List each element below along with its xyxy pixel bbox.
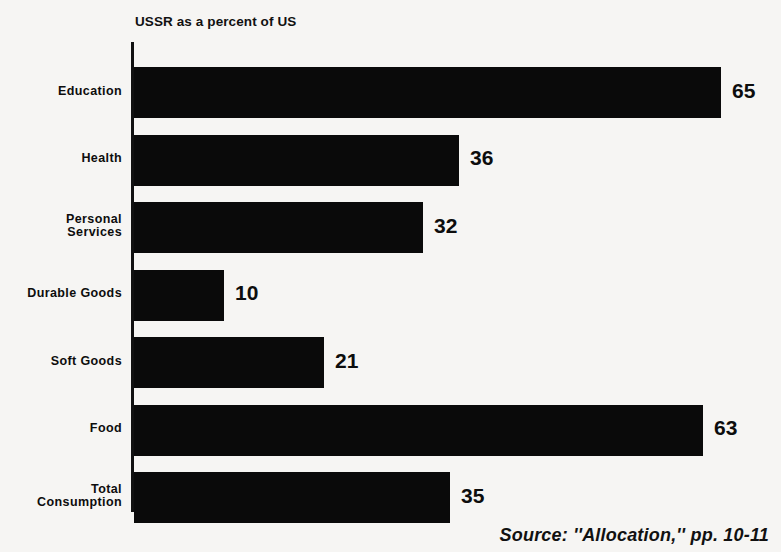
chart-page: USSR as a percent of US Education65Healt…	[0, 0, 781, 552]
bar-chart-plot-area: Education65Health36PersonalServices32Dur…	[0, 0, 781, 552]
bar-value-label: 63	[714, 416, 737, 440]
bar-rect	[134, 270, 224, 321]
bar-value-label: 35	[461, 484, 484, 508]
bar-row: TotalConsumption35	[0, 472, 781, 523]
bar-rect	[134, 67, 721, 118]
bar-value-label: 10	[235, 281, 258, 305]
bar-category-label: TotalConsumption	[0, 483, 132, 510]
bar-rect	[134, 337, 324, 388]
bar-category-label: Soft Goods	[0, 355, 132, 368]
bar-row: Soft Goods21	[0, 337, 781, 388]
source-note: Source: ''Allocation,'' pp. 10-11	[500, 525, 769, 546]
bar-row: Education65	[0, 67, 781, 118]
bar-category-label: Food	[0, 422, 132, 435]
bar-rect	[134, 472, 450, 523]
bar-value-label: 21	[335, 349, 358, 373]
bar-row: Durable Goods10	[0, 270, 781, 321]
bar-row: PersonalServices32	[0, 202, 781, 253]
bar-row: Food63	[0, 405, 781, 456]
bar-category-label: Durable Goods	[0, 287, 132, 300]
bar-category-label: PersonalServices	[0, 213, 132, 240]
bar-value-label: 36	[470, 146, 493, 170]
bar-category-label: Health	[0, 152, 132, 165]
bar-value-label: 32	[434, 214, 457, 238]
bar-rect	[134, 202, 423, 253]
bar-category-label: Education	[0, 85, 132, 98]
bar-rect	[134, 135, 459, 186]
bar-rect	[134, 405, 703, 456]
bar-value-label: 65	[732, 79, 755, 103]
bar-row: Health36	[0, 135, 781, 186]
